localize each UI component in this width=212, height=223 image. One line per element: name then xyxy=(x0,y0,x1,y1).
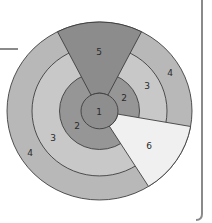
label-zone-3-left: 3 xyxy=(50,133,56,143)
label-zone-4-right: 4 xyxy=(167,68,173,78)
label-zone-2-right: 2 xyxy=(121,93,127,103)
label-zone-6: 6 xyxy=(146,141,152,151)
label-zone-5: 5 xyxy=(96,47,102,57)
label-zone-3-right: 3 xyxy=(144,81,150,91)
frame-line-right xyxy=(196,0,202,220)
concentric-zone-diagram: 5 4 3 2 1 2 3 4 6 xyxy=(0,0,212,223)
label-zone-4-left: 4 xyxy=(27,148,33,158)
label-zone-1: 1 xyxy=(96,107,102,117)
label-zone-2-left: 2 xyxy=(74,121,80,131)
